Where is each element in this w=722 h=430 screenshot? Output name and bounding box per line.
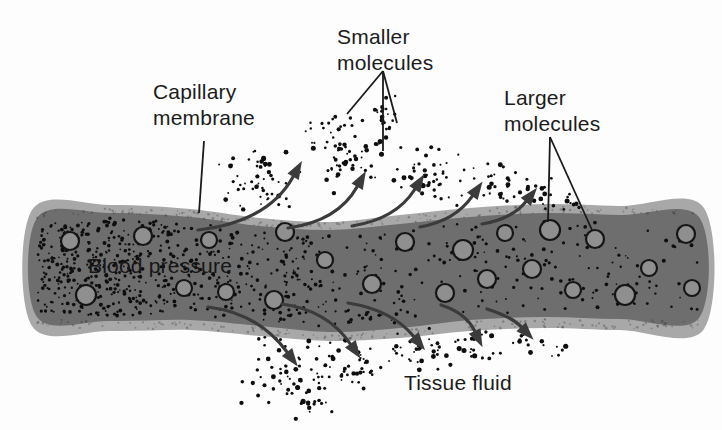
large-molecule	[276, 223, 294, 241]
large-molecule	[265, 291, 283, 309]
dots-filtered-out-top	[218, 95, 581, 212]
large-molecule	[396, 233, 414, 251]
capillary-filtration-figure: Capillary membrane Smaller molecules Lar…	[0, 0, 722, 430]
large-molecule	[684, 280, 700, 296]
large-molecule	[565, 282, 581, 298]
large-molecule	[176, 280, 192, 296]
capillary-band	[22, 199, 714, 342]
large-molecule	[641, 260, 657, 276]
capillary-diagram	[0, 0, 722, 430]
large-molecule	[436, 284, 454, 302]
large-molecule	[76, 285, 96, 305]
large-molecule	[677, 225, 695, 243]
large-molecule	[615, 285, 635, 305]
large-molecule	[586, 230, 604, 248]
large-molecule	[317, 252, 333, 268]
large-molecule	[134, 227, 152, 245]
leader-smaller	[347, 71, 383, 114]
large-molecule	[363, 275, 381, 293]
dots-filtered-out-bottom	[239, 327, 568, 421]
large-molecule	[523, 260, 541, 278]
large-molecule	[61, 232, 79, 250]
large-molecule	[201, 232, 217, 248]
large-molecule	[540, 220, 560, 240]
large-molecule	[453, 240, 473, 260]
large-molecule	[218, 284, 234, 300]
large-molecule	[478, 270, 496, 288]
large-molecule	[497, 225, 513, 241]
